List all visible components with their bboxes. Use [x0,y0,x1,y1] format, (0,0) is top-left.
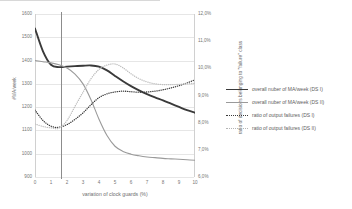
y-tick-left: 900 [8,175,32,180]
y-tick-right: 9,0% [198,94,208,99]
x-tick: 5 [108,181,122,186]
y-tick-left: 1000 [8,152,32,157]
y-tick-right: 11,0% [198,39,211,44]
legend-swatch-solid-thick-icon [226,86,248,92]
chart-figure: 1600 1500 1400 1300 1200 1100 1000 900 1… [0,0,352,209]
legend-item-3[interactable]: ratio of output failures (DS II) [226,121,352,134]
legend: overall nuber of MA/week (DS I) overall … [226,82,352,134]
y-tick-right: 8,0% [198,121,208,126]
x-axis-line [0,0,160,1]
x-tick: 1 [44,181,58,186]
x-tick: 10 [188,181,202,186]
y-tick-right: 10,0% [198,66,211,71]
legend-item-1[interactable]: overall nuber of MA/week (DS II) [226,95,352,108]
x-tick: 7 [140,181,154,186]
legend-swatch-dotted-dark-icon [226,112,248,118]
y-axis-left-title: #MA/week [12,59,17,119]
y-tick-left: 1500 [8,35,32,40]
x-tick: 6 [124,181,138,186]
y-tick-right: 7,0% [198,148,208,153]
x-tick: 0 [28,181,42,186]
y-tick-left: 1100 [8,128,32,133]
series-line-0 [35,28,195,112]
legend-label: overall nuber of MA/week (DS I) [252,86,323,92]
x-axis-title: variation of clock guards (%) [35,191,195,197]
legend-swatch-solid-thin-icon [226,99,248,105]
series-line-3 [35,64,195,129]
y-tick-right: 6,0% [198,175,208,180]
x-tick: 3 [76,181,90,186]
x-tick: 8 [156,181,170,186]
legend-label: ratio of output failures (DS I) [252,112,315,118]
x-tick: 2 [60,181,74,186]
legend-item-2[interactable]: ratio of output failures (DS I) [226,108,352,121]
x-tick: 4 [92,181,106,186]
legend-label: ratio of output failures (DS II) [252,125,316,131]
y-tick-right: 12,0% [198,12,211,17]
legend-label: overall nuber of MA/week (DS II) [252,99,324,105]
legend-swatch-dotted-light-icon [226,125,248,131]
series-curves [35,14,195,178]
y-tick-left: 1600 [8,12,32,17]
legend-item-0[interactable]: overall nuber of MA/week (DS I) [226,82,352,95]
x-tick: 9 [172,181,186,186]
